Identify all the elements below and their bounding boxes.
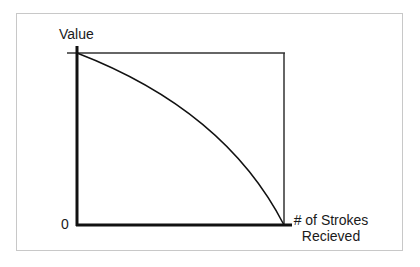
x-axis-label-line2: Recieved [288,228,374,244]
y-axis-label: Value [59,26,94,42]
x-axis-label-line1: # of Strokes [288,212,374,228]
origin-label: 0 [61,216,69,232]
value-curve [77,53,284,225]
x-axis-label: # of Strokes Recieved [288,212,374,244]
